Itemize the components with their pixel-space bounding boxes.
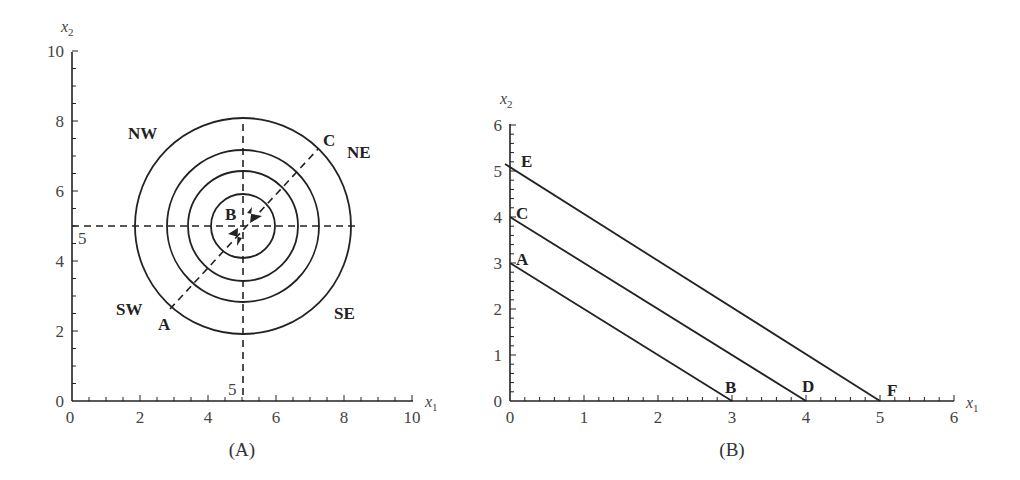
point-a-label: A (158, 315, 171, 334)
tick-label: 2 (56, 322, 65, 341)
tick-label: 5 (876, 408, 885, 427)
panel-b-x-axis-label: x1 (965, 394, 979, 414)
tick-label: 6 (272, 408, 281, 427)
point-c-label: C (323, 131, 335, 150)
figure: 0 2 4 6 8 10 0 2 4 6 8 10 x2 x1 5 5 NW N… (0, 0, 1020, 480)
tick-label: 10 (404, 408, 421, 427)
panel-b-labels: 0 1 2 3 4 5 6 0 1 2 3 4 5 6 x2 x1 A B C … (494, 90, 979, 461)
point-d-label: D (802, 377, 814, 396)
arrow-ne-icon (247, 207, 262, 223)
panel-a-y-axis-label: x2 (60, 18, 74, 38)
tick-label: 0 (66, 408, 75, 427)
tick-label: 3 (728, 408, 737, 427)
tick-label: 3 (494, 254, 503, 273)
label-sw: SW (116, 300, 142, 319)
panel-b-y-axis-label: x2 (499, 90, 513, 110)
panel-a-y-ticks (72, 51, 78, 384)
budget-line-c-d (510, 217, 806, 401)
label-se: SE (334, 304, 355, 323)
tick-label: 2 (136, 408, 145, 427)
tick-label: 2 (654, 408, 663, 427)
tick-label: 8 (56, 112, 65, 131)
tick-label: 0 (506, 408, 515, 427)
label-nw: NW (128, 124, 157, 143)
panel-b-caption: (B) (719, 439, 744, 461)
point-f-label: F (887, 381, 897, 400)
tick-label: 4 (494, 208, 503, 227)
panel-a-caption: (A) (229, 439, 255, 461)
tick-label: 2 (494, 300, 503, 319)
budget-line-a-b (510, 263, 732, 401)
tick-label: 1 (494, 346, 503, 365)
tick-label: 4 (802, 408, 811, 427)
tick-label: 6 (494, 116, 503, 135)
panel-a (72, 51, 413, 401)
tick-label: 4 (56, 252, 65, 271)
point-b-label: B (725, 378, 736, 397)
point-c-label: C (516, 204, 528, 223)
tick-label: 4 (204, 408, 213, 427)
tick-label: 8 (340, 408, 349, 427)
tick-label: 1 (580, 408, 589, 427)
tick-label: 5 (494, 162, 503, 181)
label-ne: NE (347, 143, 371, 162)
panel-a-x-axis-label: x1 (424, 393, 438, 413)
tick-label: 6 (950, 408, 959, 427)
panel-a-diagonal-line (170, 149, 318, 309)
ref-5-left: 5 (78, 229, 87, 248)
panel-b (505, 124, 954, 401)
ref-5-bottom: 5 (228, 380, 237, 399)
tick-label: 6 (56, 182, 65, 201)
panel-a-x-ticks (89, 395, 412, 401)
point-e-label: E (521, 152, 532, 171)
point-a-label: A (516, 250, 529, 269)
tick-label: 0 (494, 392, 503, 411)
point-b-label: B (225, 205, 236, 224)
tick-label: 0 (56, 392, 65, 411)
budget-line-e-f (505, 164, 880, 401)
tick-label: 10 (47, 42, 64, 61)
